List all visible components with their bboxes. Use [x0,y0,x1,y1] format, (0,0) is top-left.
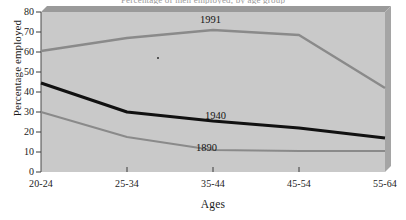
y-tick-label: 0 [10,167,34,177]
y-tick-label: 10 [10,147,34,157]
x-axis-title: Ages [41,198,385,210]
scan-artifact-speck [157,57,159,59]
x-tick-label: 25-34 [99,178,155,189]
series-label-1890: 1890 [196,142,217,153]
chart-title-clipped: Percentage of men employed, by age group [0,0,406,4]
x-tick-label: 55-64 [357,178,406,189]
series-label-1991: 1991 [200,14,221,25]
panel-bevel-right [385,6,391,172]
panel-bevel-top [41,6,391,12]
x-tick-label: 45-54 [271,178,327,189]
y-axis-title: Percentage employed [11,0,23,138]
chart-figure: Percentage of men employed, by age group… [0,0,406,220]
x-tick-label: 20-24 [13,178,69,189]
series-label-1940: 1940 [205,110,226,121]
x-tick-label: 35-44 [185,178,241,189]
y-axis [36,12,41,172]
